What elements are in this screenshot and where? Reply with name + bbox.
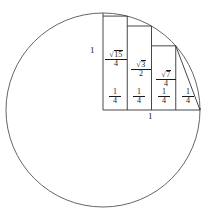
figure-canvas xyxy=(0,0,208,219)
rect-2-height-label: √3 2 xyxy=(131,60,151,79)
rect-1-height-label: √15 4 xyxy=(105,50,127,69)
rect-3-height-label: √7 4 xyxy=(156,70,176,89)
rect-2-radicand: 3 xyxy=(141,60,146,69)
rect-1-width-denominator: 4 xyxy=(109,97,121,105)
rect-1-height-denominator: 4 xyxy=(105,60,127,68)
rect-4-width-denominator: 4 xyxy=(182,97,194,105)
vertical-radius-label: 1 xyxy=(90,46,95,55)
rect-3-width-label: 1 4 xyxy=(158,88,170,106)
rect-2-height-denominator: 2 xyxy=(131,70,151,78)
horizontal-radius-label: 1 xyxy=(148,112,153,121)
math-figure: 1 1 √15 4 √3 2 √7 4 1 4 1 4 1 4 1 4 xyxy=(0,0,208,219)
rect-3-radicand: 7 xyxy=(166,70,171,79)
rect-2-width-label: 1 4 xyxy=(133,88,145,106)
rect-3-width-denominator: 4 xyxy=(158,97,170,105)
rect-1-width-label: 1 4 xyxy=(109,88,121,106)
rect-4-width-label: 1 4 xyxy=(182,88,194,106)
rect-2-width-denominator: 4 xyxy=(133,97,145,105)
rect-1-radicand: 15 xyxy=(114,50,123,59)
